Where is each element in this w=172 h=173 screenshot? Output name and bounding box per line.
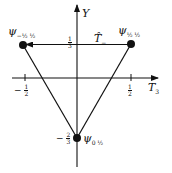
state-label-right: ψ½ ½ [118,25,140,38]
edge-left [23,45,77,138]
operator-label: T̂− [94,33,106,46]
y-axis-label: Y [82,8,89,19]
tick-label-x-pos-half: 12 [128,84,132,97]
edge-right [77,44,131,138]
state-dot-right [127,40,135,48]
state-label-left: ψ−½ ½ [8,26,35,39]
tick-label-y-neg-two-thirds: − 23 [56,132,70,145]
state-label-bottom: ψ0 ½ [83,133,103,146]
state-dot-bottom [73,134,81,142]
state-dot-left [19,41,27,49]
t3-axis-label: T3 [148,82,159,95]
tick-label-x-neg-half: − 12 [14,84,28,97]
tick-label-y-pos-third: 13 [68,36,72,49]
